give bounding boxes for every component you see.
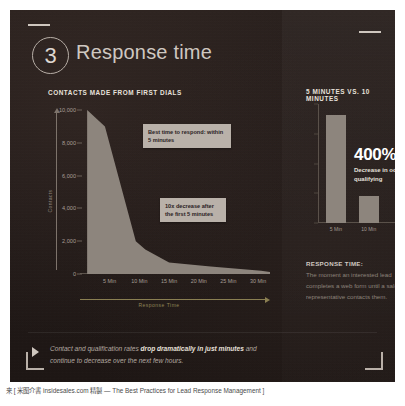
- page-title: Response time: [76, 41, 212, 64]
- y-axis-tick-mark: [77, 175, 82, 176]
- bar-chart-y-axis: [318, 104, 319, 223]
- y-axis-tick-label: 2,000: [62, 238, 76, 244]
- summary-note-lead: Contact and qualification rates: [50, 345, 141, 352]
- x-axis-tick-label: 25 Min: [220, 278, 236, 284]
- right-section-label: 5 MINUTES VS. 10 MINUTES: [306, 88, 395, 102]
- bar: [326, 115, 346, 223]
- bar-x-axis-tick-label: 5 Min: [330, 226, 342, 232]
- x-axis-tick-label: 10 Min: [131, 278, 147, 284]
- slide-card: 3 Response time CONTACTS MADE FROM FIRST…: [10, 10, 395, 382]
- bar-y-axis-tick-mark: [314, 133, 318, 134]
- bar-x-axis-tick-label: 10 Min: [361, 226, 376, 232]
- y-axis-tick-label: 4,000: [62, 205, 76, 211]
- left-section-label: CONTACTS MADE FROM FIRST DIALS: [48, 89, 182, 96]
- y-axis-tick-mark: [77, 142, 82, 143]
- bar: [359, 196, 379, 223]
- big-stat: 400% Decrease in odds of qualifying: [354, 146, 395, 183]
- y-axis-tick-label: 0: [73, 271, 76, 277]
- contacts-area-chart: Contacts 02,0004,0006,0008,00010,0005 Mi…: [48, 106, 270, 296]
- crop-mark-top-right: [359, 31, 381, 33]
- big-stat-description: Decrease in odds of qualifying: [354, 166, 395, 183]
- callout-best-time: Best time to respond: within 5 minutes: [143, 124, 231, 148]
- x-axis-tick-label: 30 Min: [250, 278, 266, 284]
- x-axis-tick-label: 15 Min: [161, 278, 177, 284]
- definition-heading: RESPONSE TIME:: [306, 260, 395, 267]
- step-number-badge: 3: [32, 37, 69, 74]
- callout-decrease: 10x decrease after the first 5 minutes: [160, 198, 226, 222]
- bullet-triangle-icon: [32, 347, 39, 357]
- section-divider: [28, 332, 377, 333]
- infographic-page: 3 Response time CONTACTS MADE FROM FIRST…: [0, 0, 405, 406]
- summary-note-emphasis: drop dramatically in just minutes: [141, 345, 244, 352]
- y-axis-arrow: [56, 112, 57, 270]
- corner-mark-bottom-right: [365, 352, 383, 370]
- x-axis-tick-label: 5 Min: [103, 278, 116, 284]
- y-axis-tick-mark: [77, 241, 82, 242]
- y-axis-tick-mark: [77, 208, 82, 209]
- y-axis-title: Contacts: [47, 190, 53, 213]
- big-stat-value: 400%: [354, 146, 395, 163]
- footer-caption-text: 来 [ 米图介書 insidesales.com 精製 — The Best P…: [6, 386, 264, 395]
- x-axis-tick-label: 20 Min: [191, 278, 207, 284]
- x-axis-title: Response Time: [138, 302, 179, 308]
- crop-mark-top-left: [28, 24, 50, 26]
- bar-y-axis-tick-mark: [314, 104, 318, 105]
- definition-body: The moment an interested lead completes …: [306, 270, 395, 303]
- y-axis-tick-label: 6,000: [62, 173, 76, 179]
- x-axis-arrow: [80, 299, 266, 300]
- bar-y-axis-tick-mark: [314, 163, 318, 164]
- bar-y-axis-tick-mark: [314, 193, 318, 194]
- bar-y-axis-tick-mark: [314, 223, 318, 224]
- footer-caption: 来 [ 米图介書 insidesales.com 精製 — The Best P…: [0, 386, 405, 406]
- y-axis-tick-mark: [77, 110, 82, 111]
- y-axis-tick-mark: [77, 274, 82, 275]
- y-axis-tick-label: 8,000: [62, 140, 76, 146]
- response-time-definition: RESPONSE TIME: The moment an interested …: [306, 260, 395, 303]
- y-axis-tick-label: 10,000: [59, 107, 76, 113]
- summary-note: Contact and qualification rates drop dra…: [50, 343, 275, 366]
